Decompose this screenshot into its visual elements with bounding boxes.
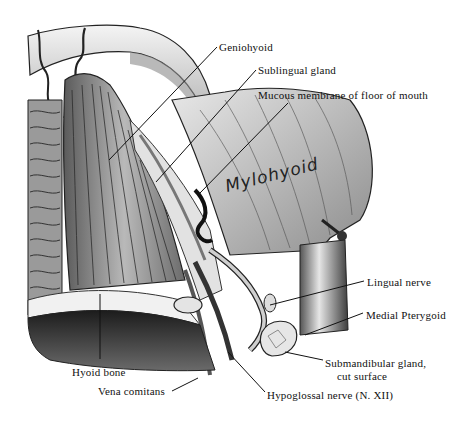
label-geniohyoid: Geniohyoid [219, 41, 273, 53]
label-mucous-membrane: Mucous membrane of floor of mouth [258, 89, 428, 101]
label-lingual-nerve: Lingual nerve [367, 276, 431, 288]
medial-pterygoid-cylinder [300, 240, 348, 335]
hyoid-bone [28, 291, 215, 371]
submandibular-gland [260, 321, 296, 356]
label-sublingual-gland: Sublingual gland [258, 64, 336, 76]
label-medial-pterygoid: Medial Pterygoid [366, 309, 446, 321]
label-hypoglossal-nerve: Hypoglossal nerve (N. XII) [267, 389, 393, 401]
label-submandibular-gland-line2: cut surface [337, 370, 387, 382]
label-hyoid-bone: Hyoid bone [72, 366, 126, 378]
tongue-section [28, 100, 62, 315]
label-vena-comitans: Vena comitans [98, 385, 165, 397]
label-submandibular-gland: Submandibular gland, [325, 357, 426, 369]
